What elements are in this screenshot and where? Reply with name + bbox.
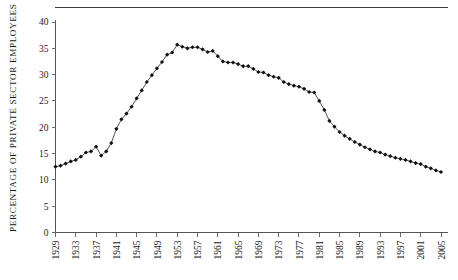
data-point-marker (261, 70, 265, 74)
x-tick-group: 1929193319371941194519491953195719611965… (51, 233, 447, 260)
data-point-marker (368, 147, 372, 151)
x-tick-label: 1969 (254, 240, 264, 259)
data-point-marker (429, 166, 433, 170)
y-tick-label: 0 (44, 228, 49, 238)
data-point-marker (307, 90, 311, 94)
data-point-marker (140, 88, 144, 92)
data-point-marker (246, 64, 250, 68)
data-point-marker (200, 47, 204, 51)
series-markers (53, 43, 443, 175)
x-tick-label: 1953 (173, 240, 183, 259)
data-point-marker (312, 90, 316, 94)
x-tick-label: 1985 (335, 240, 345, 259)
x-tick-label: 1993 (376, 240, 386, 259)
data-point-marker (388, 154, 392, 158)
data-point-marker (297, 85, 301, 89)
data-point-marker (266, 73, 270, 77)
data-point-marker (180, 45, 184, 49)
data-point-marker (175, 43, 179, 47)
data-point-marker (353, 140, 357, 144)
data-point-marker (363, 145, 367, 149)
x-tick-label: 1997 (396, 240, 406, 259)
x-tick-label: 1929 (51, 240, 61, 259)
line-chart: PERCENTAGE OF PRIVATE SECTOR EMPLOYEES 0… (0, 0, 458, 280)
data-point-marker (287, 82, 291, 86)
data-point-marker (53, 165, 57, 169)
data-point-marker (109, 141, 113, 145)
data-point-marker (373, 149, 377, 153)
chart-figure: PERCENTAGE OF PRIVATE SECTOR EMPLOYEES 0… (0, 0, 458, 280)
x-tick-label: 1981 (315, 240, 325, 259)
data-point-marker (424, 165, 428, 169)
x-tick-label: 1989 (355, 240, 365, 259)
x-tick-label: 2005 (437, 240, 447, 259)
data-point-marker (58, 164, 62, 168)
data-point-marker (358, 143, 362, 147)
data-point-marker (317, 99, 321, 103)
x-tick-label: 2001 (416, 240, 426, 259)
data-point-marker (434, 168, 438, 172)
x-tick-label: 1957 (193, 240, 203, 259)
y-tick-label: 40 (39, 17, 49, 27)
data-point-marker (64, 161, 68, 165)
x-tick-label: 1961 (213, 240, 223, 259)
data-point-marker (322, 108, 326, 112)
data-point-marker (393, 156, 397, 160)
data-point-marker (114, 127, 118, 131)
x-tick-label: 1945 (132, 240, 142, 259)
y-tick-label: 30 (39, 70, 49, 80)
data-point-marker (190, 45, 194, 49)
data-point-marker (408, 159, 412, 163)
data-point-marker (241, 64, 245, 68)
x-tick-label: 1933 (71, 240, 81, 259)
data-point-marker (135, 96, 139, 100)
top-horizontal-rule (55, 7, 448, 8)
data-point-marker (414, 161, 418, 165)
y-tick-label: 35 (39, 44, 49, 54)
x-tick-label: 1941 (112, 240, 122, 259)
data-point-marker (348, 137, 352, 141)
y-tick-label: 15 (39, 149, 49, 159)
y-tick-group: 0510152025303540 (39, 17, 56, 238)
data-point-marker (195, 45, 199, 49)
data-point-marker (398, 157, 402, 161)
data-point-marker (419, 162, 423, 166)
x-tick-label: 1973 (274, 240, 284, 259)
data-point-marker (383, 153, 387, 157)
y-tick-label: 5 (44, 202, 49, 212)
axis-lines (56, 20, 449, 233)
data-point-marker (226, 60, 230, 64)
data-point-marker (236, 62, 240, 66)
y-axis-label: PERCENTAGE OF PRIVATE SECTOR EMPLOYEES (8, 4, 18, 232)
data-point-marker (231, 60, 235, 64)
data-point-marker (439, 170, 443, 174)
x-tick-label: 1949 (153, 240, 163, 259)
data-point-marker (292, 84, 296, 88)
x-tick-label: 1977 (295, 240, 305, 259)
y-tick-label: 10 (39, 175, 49, 185)
data-point-marker (74, 158, 78, 162)
data-point-marker (403, 158, 407, 162)
y-tick-label: 20 (39, 123, 49, 133)
data-point-marker (206, 50, 210, 54)
series-line-union-membership (56, 45, 442, 172)
data-point-marker (185, 46, 189, 50)
data-point-marker (251, 67, 255, 71)
x-tick-label: 1937 (92, 240, 102, 259)
data-point-marker (302, 87, 306, 91)
data-point-marker (69, 159, 73, 163)
x-tick-label: 1965 (234, 240, 244, 259)
data-point-marker (256, 70, 260, 74)
data-point-marker (170, 50, 174, 54)
y-tick-label: 25 (39, 96, 49, 106)
data-point-marker (272, 75, 276, 79)
data-point-marker (378, 150, 382, 154)
